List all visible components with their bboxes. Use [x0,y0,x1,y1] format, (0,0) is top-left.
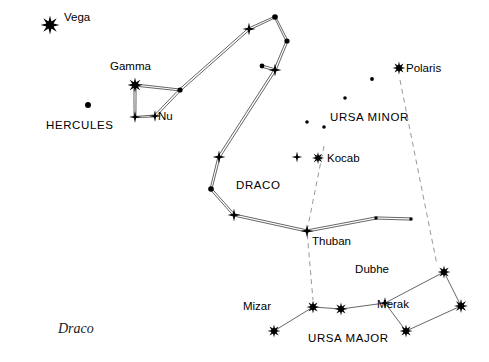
hercules-label: HERCULES [46,120,113,132]
thuban-label: Thuban [312,236,351,248]
figure-caption: Draco [58,321,94,337]
star-gamma-core [132,82,138,88]
star-polaris-core [396,65,401,70]
draco-body-stroke [135,18,411,232]
kocab-thuban-mizar-pointer [307,146,324,300]
star-d-b3 [284,38,289,43]
star-phecda-core [403,328,408,333]
star-d-b2 [272,14,278,20]
star-d-head-e [177,87,182,92]
star-mizar-core [310,304,315,309]
star-d-b6 [208,186,214,192]
draco-label: DRACO [236,180,281,192]
star-vega-core [46,21,54,29]
nu-label: Nu [158,111,173,123]
star-merak-core [458,303,464,309]
mizar-label: Mizar [243,301,271,313]
star-dubhe-core [441,269,446,274]
star-um-f1 [370,77,374,81]
dubhe-label: Dubhe [355,264,389,276]
star-d-b1 [243,23,256,36]
polaris-dubhe-pointer [400,80,437,265]
star-herc-dot [85,102,91,108]
star-d-b7 [228,209,241,222]
gamma-label: Gamma [110,61,151,73]
stars-layer [41,14,469,337]
merak-label: Merak [377,299,409,311]
kocab-label: Kocab [327,153,360,165]
star-um-f3 [305,120,309,124]
star-um-c [292,152,303,163]
star-d-head-s [129,111,141,123]
star-kocab-core [316,156,321,161]
star-um-f2 [343,96,347,100]
star-chart-figure: VegaGammaNuHERCULESPolarisURSA MINORKoca… [0,0,489,362]
ursa-major-handle [274,303,385,331]
ursa-major-handle-stroke [274,303,385,331]
ursa-minor-label: URSA MINOR [330,112,409,124]
polaris-label: Polaris [406,63,441,75]
star-d-tail1 [375,217,378,220]
ursa-major-label: URSA MAJOR [308,333,389,345]
star-d-b4b [260,64,265,69]
star-d-tail2 [410,218,413,221]
star-alioth-core [338,306,343,311]
vega-label: Vega [64,12,90,24]
star-alkaid-core [271,328,276,333]
star-um-f4 [322,125,326,129]
draco-body [135,16,411,232]
